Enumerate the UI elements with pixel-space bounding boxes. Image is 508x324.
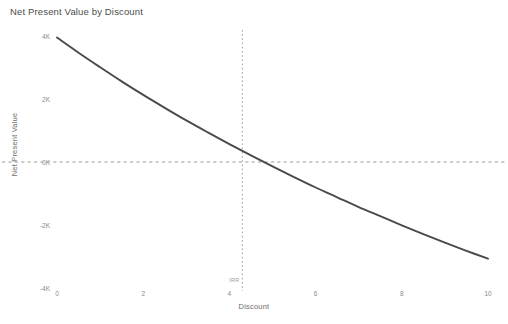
reference-lines — [2, 30, 506, 291]
npv-chart: Net Present Value by Discount Net Presen… — [0, 0, 508, 324]
npv-series-line — [57, 38, 488, 259]
plot-area — [0, 0, 508, 324]
